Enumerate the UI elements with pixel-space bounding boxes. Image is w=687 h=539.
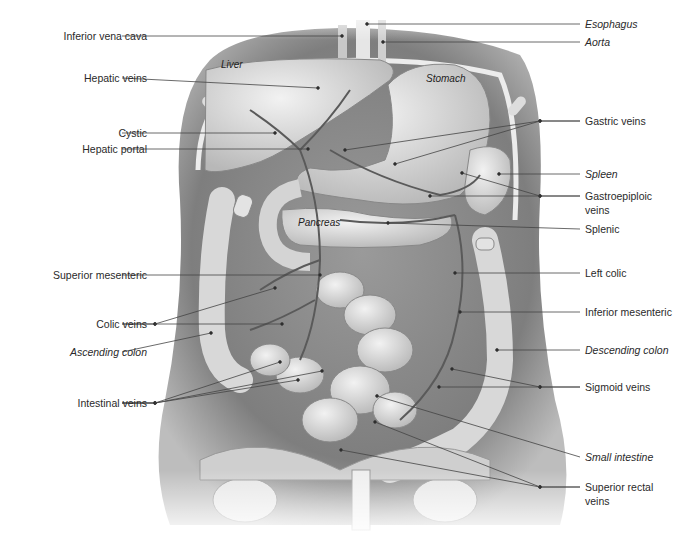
label-line-1: Gastroepiploic [585, 189, 652, 203]
label-superior-mesenteric: Superior mesenteric [53, 268, 147, 282]
organ-label-pancreas: Pancreas [298, 217, 340, 228]
label-intestinal-veins: Intestinal veins [78, 396, 147, 410]
label-line-1: Superior rectal [585, 480, 653, 494]
label-superior-rectal-veins: Superior rectal veins [585, 480, 653, 508]
label-sigmoid-veins: Sigmoid veins [585, 380, 650, 394]
label-spleen: Spleen [585, 167, 618, 181]
label-cystic: Cystic [118, 126, 147, 140]
organ-label-stomach: Stomach [426, 73, 465, 84]
label-small-intestine: Small intestine [585, 450, 653, 464]
label-inferior-vena-cava: Inferior vena cava [64, 29, 147, 43]
label-left-colic: Left colic [585, 266, 626, 280]
label-descending-colon: Descending colon [585, 343, 668, 357]
label-gastric-veins: Gastric veins [585, 114, 646, 128]
label-line-2: veins [585, 494, 653, 508]
label-colic-veins: Colic veins [96, 317, 147, 331]
label-hepatic-portal: Hepatic portal [82, 142, 147, 156]
label-splenic: Splenic [585, 222, 619, 236]
label-line-2: veins [585, 203, 652, 217]
label-inferior-mesenteric: Inferior mesenteric [585, 305, 672, 319]
label-hepatic-veins: Hepatic veins [84, 71, 147, 85]
label-gastroepiploic-veins: Gastroepiploic veins [585, 189, 652, 217]
anatomy-diagram: Inferior vena cava Hepatic veins Cystic … [0, 0, 687, 539]
label-aorta: Aorta [585, 35, 610, 49]
label-ascending-colon: Ascending colon [70, 345, 147, 359]
label-esophagus: Esophagus [585, 17, 638, 31]
organ-label-liver: Liver [221, 59, 243, 70]
